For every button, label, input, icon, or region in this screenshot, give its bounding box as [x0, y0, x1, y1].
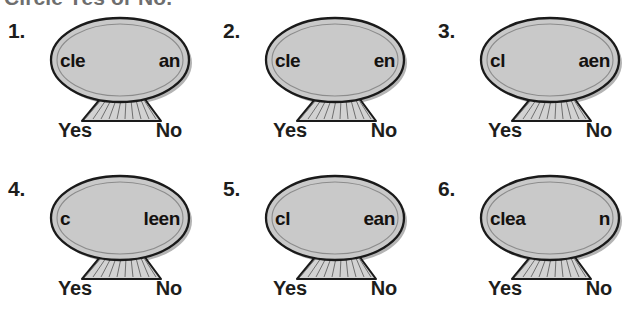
clam-shell-graphic	[44, 14, 196, 124]
clam-shell-graphic	[44, 172, 196, 282]
answer-yes[interactable]: Yes	[273, 120, 307, 140]
answer-row: Yes No	[259, 278, 411, 298]
answer-yes[interactable]: Yes	[488, 120, 522, 140]
problem-item-5: 5.	[215, 172, 430, 330]
worksheet-title: Circle Yes or No.	[4, 0, 172, 8]
problem-item-6: 6.	[430, 172, 644, 330]
problem-item-2: 2.	[215, 14, 430, 172]
clam-shell-graphic	[259, 172, 411, 282]
answer-yes[interactable]: Yes	[488, 278, 522, 298]
answer-no[interactable]: No	[156, 278, 182, 298]
problem-grid: 1.	[0, 14, 644, 330]
problem-item-3: 3.	[430, 14, 644, 172]
problem-item-1: 1.	[0, 14, 215, 172]
problem-number: 4.	[8, 178, 25, 199]
problem-number: 6.	[438, 178, 455, 199]
problem-item-4: 4.	[0, 172, 215, 330]
clam-shell-graphic	[474, 172, 626, 282]
problem-number: 2.	[223, 20, 240, 41]
answer-row: Yes No	[44, 120, 196, 140]
answer-yes[interactable]: Yes	[58, 278, 92, 298]
clam-shell-graphic	[474, 14, 626, 124]
clam-shell-graphic	[259, 14, 411, 124]
answer-no[interactable]: No	[156, 120, 182, 140]
answer-row: Yes No	[474, 120, 626, 140]
answer-row: Yes No	[44, 278, 196, 298]
answer-no[interactable]: No	[371, 120, 397, 140]
answer-yes[interactable]: Yes	[58, 120, 92, 140]
answer-row: Yes No	[259, 120, 411, 140]
answer-yes[interactable]: Yes	[273, 278, 307, 298]
answer-no[interactable]: No	[586, 120, 612, 140]
problem-number: 3.	[438, 20, 455, 41]
answer-row: Yes No	[474, 278, 626, 298]
problem-number: 5.	[223, 178, 240, 199]
answer-no[interactable]: No	[586, 278, 612, 298]
answer-no[interactable]: No	[371, 278, 397, 298]
problem-number: 1.	[8, 20, 25, 41]
